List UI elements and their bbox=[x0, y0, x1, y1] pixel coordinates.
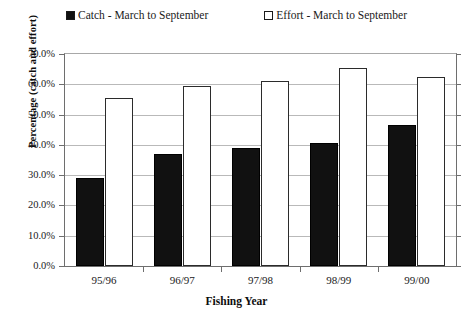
axis-tick bbox=[59, 145, 64, 146]
axis-tick bbox=[456, 145, 461, 146]
legend-swatch-filled-square-icon bbox=[66, 11, 75, 20]
legend-label-effort: Effort - March to September bbox=[276, 10, 407, 22]
legend-swatch-hollow-square-icon bbox=[264, 11, 273, 20]
legend-label-catch: Catch - March to September bbox=[78, 10, 208, 22]
bar-group bbox=[388, 54, 445, 266]
x-axis-tick-label: 97/98 bbox=[226, 275, 296, 286]
x-axis-tick-label: 95/96 bbox=[69, 275, 139, 286]
x-axis-tick-label: 99/00 bbox=[382, 275, 452, 286]
axis-tick bbox=[456, 84, 461, 85]
bar-catch bbox=[154, 154, 182, 266]
axis-tick bbox=[456, 175, 461, 176]
bar-group bbox=[310, 54, 367, 266]
x-axis-tick-label: 98/99 bbox=[304, 275, 374, 286]
bar-catch bbox=[232, 148, 260, 266]
x-axis-tick bbox=[143, 267, 144, 272]
x-axis-tick bbox=[300, 267, 301, 272]
axis-tick bbox=[456, 266, 461, 267]
legend-entry-effort: Effort - March to September bbox=[264, 10, 407, 22]
axis-tick bbox=[59, 266, 64, 267]
bar-group bbox=[154, 54, 211, 266]
axis-tick bbox=[456, 236, 461, 237]
bar-effort bbox=[183, 86, 211, 266]
axis-tick bbox=[59, 175, 64, 176]
bar-effort bbox=[105, 98, 133, 266]
y-axis-tick-label: 30.0% bbox=[0, 170, 55, 181]
x-axis-title: Fishing Year bbox=[0, 295, 473, 307]
bar-catch bbox=[76, 178, 104, 266]
y-axis-tick-label: 0.0% bbox=[0, 261, 55, 272]
axis-tick bbox=[59, 54, 64, 55]
bar-group bbox=[76, 54, 133, 266]
axis-tick bbox=[59, 236, 64, 237]
axis-tick bbox=[456, 205, 461, 206]
legend-entry-catch: Catch - March to September bbox=[66, 10, 208, 22]
y-axis-tick-label: 10.0% bbox=[0, 231, 55, 242]
y-axis-tick-label: 70.0% bbox=[0, 49, 55, 60]
chart-legend: Catch - March to September Effort - Marc… bbox=[0, 10, 473, 22]
y-axis-tick-label: 60.0% bbox=[0, 79, 55, 90]
y-axis-tick-label: 20.0% bbox=[0, 200, 55, 211]
chart-figure: Catch - March to September Effort - Marc… bbox=[0, 0, 473, 323]
axis-tick bbox=[59, 84, 64, 85]
bar-catch bbox=[388, 125, 416, 266]
plot-area: 70.0%60.0%50.0%40.0%30.0%20.0%10.0%0.0%9… bbox=[64, 53, 457, 267]
axis-tick bbox=[456, 54, 461, 55]
bar-group bbox=[232, 54, 289, 266]
x-axis-tick bbox=[378, 267, 379, 272]
bar-effort bbox=[261, 81, 289, 266]
axis-tick bbox=[456, 115, 461, 116]
y-axis-tick-label: 40.0% bbox=[0, 140, 55, 151]
bar-effort bbox=[339, 68, 367, 266]
axis-tick bbox=[59, 115, 64, 116]
bar-effort bbox=[417, 77, 445, 266]
y-axis-tick-label: 50.0% bbox=[0, 110, 55, 121]
axis-tick bbox=[59, 205, 64, 206]
x-axis-tick-label: 96/97 bbox=[147, 275, 217, 286]
bar-catch bbox=[310, 143, 338, 266]
x-axis-tick bbox=[221, 267, 222, 272]
